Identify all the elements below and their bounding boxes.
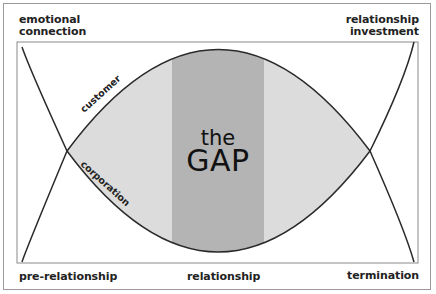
label-pre-relationship: pre-relationship [19, 271, 117, 283]
label-line: investment [346, 26, 419, 38]
gap-title-main: GAP [168, 145, 268, 177]
label-relationship-investment: relationship investment [346, 14, 419, 38]
label-termination: termination [347, 270, 419, 282]
label-line: connection [19, 26, 86, 38]
label-relationship: relationship [187, 271, 260, 283]
label-emotional-connection: emotional connection [19, 14, 86, 38]
